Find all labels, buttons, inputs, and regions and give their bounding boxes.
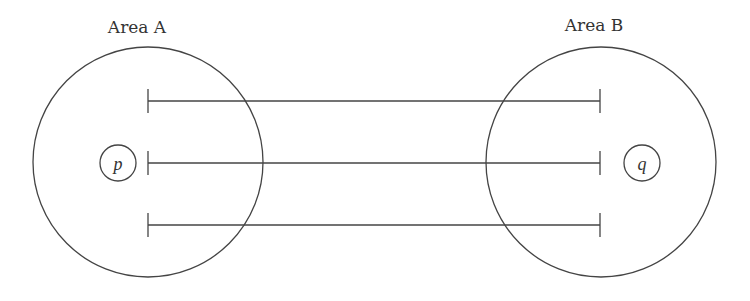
area-b-circle — [486, 47, 716, 277]
connection-line-3 — [148, 213, 600, 237]
area-b: Area B q — [486, 15, 716, 277]
area-a: Area A p — [33, 17, 263, 277]
point-q-label: q — [638, 154, 647, 174]
area-a-label: Area A — [107, 17, 167, 37]
connection-line-1 — [148, 89, 600, 113]
diagram-canvas: Area A p Area B q — [0, 0, 750, 301]
area-b-label: Area B — [564, 15, 624, 35]
point-p-label: p — [112, 154, 123, 174]
connection-line-2 — [148, 151, 600, 175]
